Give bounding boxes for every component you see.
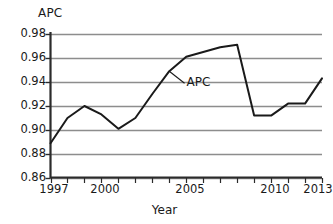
y-tick-label: 0.90: [12, 124, 46, 136]
x-tick-label: 2013: [303, 184, 332, 196]
y-tick-label: 0.94: [12, 76, 46, 88]
y-tick-label: 0.98: [12, 28, 46, 40]
x-tick-label: 1997: [39, 184, 68, 196]
series-line-apc: [51, 45, 323, 143]
y-tick-label: 0.96: [12, 52, 46, 64]
x-tick-label: 2010: [260, 184, 289, 196]
series-annotation-apc: APC: [187, 75, 211, 89]
annotation-leader-line: [169, 71, 184, 83]
x-tick-label: 2005: [175, 184, 204, 196]
y-tick-label: 0.92: [12, 100, 46, 112]
x-axis-title: Year: [0, 203, 329, 217]
x-tick-label: 2000: [90, 184, 119, 196]
y-tick-label: 0.88: [12, 148, 46, 160]
